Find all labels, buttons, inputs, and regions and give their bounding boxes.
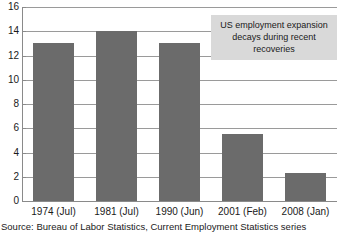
- y-axis-tick-label: 6: [1, 123, 19, 133]
- annotation-line: decays during recent recoveries: [213, 31, 335, 55]
- y-axis-tick-label: 8: [1, 99, 19, 109]
- y-axis-tick-labels: 0246810121416: [0, 0, 19, 236]
- y-axis-tick-label: 16: [1, 2, 19, 12]
- chart-figure: 0246810121416 US employment expansiondec…: [0, 0, 342, 236]
- bar: [33, 43, 74, 201]
- y-axis-tick-mark: [22, 128, 26, 129]
- bar: [159, 43, 200, 201]
- y-axis-tick-mark: [22, 56, 26, 57]
- y-axis-tick-label: 2: [1, 172, 19, 182]
- bar: [222, 134, 263, 201]
- bar: [96, 31, 137, 201]
- x-axis-tick-label: 2008 (Jan): [274, 206, 337, 218]
- y-axis-tick-mark: [22, 177, 26, 178]
- chart-annotation-callout: US employment expansiondecays during rec…: [211, 15, 337, 60]
- gridline: [22, 7, 337, 8]
- source-note: Source: Bureau of Labor Statistics, Curr…: [1, 221, 306, 232]
- bar: [285, 173, 326, 201]
- x-axis-tick-label: 1974 (Jul): [22, 206, 85, 218]
- x-axis-tick-label: 1981 (Jul): [85, 206, 148, 218]
- y-axis-tick-label: 4: [1, 148, 19, 158]
- y-axis-tick-label: 12: [1, 51, 19, 61]
- y-axis-tick-mark: [22, 80, 26, 81]
- x-axis-tick-label: 1990 (Jun): [148, 206, 211, 218]
- gridline: [22, 201, 337, 202]
- annotation-line: US employment expansion: [213, 19, 335, 31]
- y-axis-tick-label: 14: [1, 26, 19, 36]
- y-axis-tick-mark: [22, 201, 26, 202]
- y-axis-tick-mark: [22, 104, 26, 105]
- y-axis-tick-label: 0: [1, 196, 19, 206]
- y-axis-tick-mark: [22, 31, 26, 32]
- x-axis-tick-label: 2001 (Feb): [211, 206, 274, 218]
- y-axis-tick-mark: [22, 7, 26, 8]
- y-axis-tick-mark: [22, 153, 26, 154]
- y-axis-tick-label: 10: [1, 75, 19, 85]
